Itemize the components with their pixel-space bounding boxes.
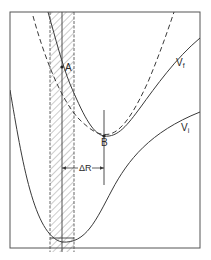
plot-frame [10,12,200,248]
delta-r-label: ΔR [79,163,92,173]
potential-energy-diagram: A B ΔR Vf Vi [0,0,211,260]
point-b-label: B [101,137,108,148]
curve-v-final-label: Vf [176,57,185,69]
franck-condon-band [50,12,74,252]
curve-v-initial [10,90,200,242]
curve-v-initial-label: Vi [181,122,190,134]
point-a-label: A [65,62,72,73]
point-a-marker [60,65,63,68]
